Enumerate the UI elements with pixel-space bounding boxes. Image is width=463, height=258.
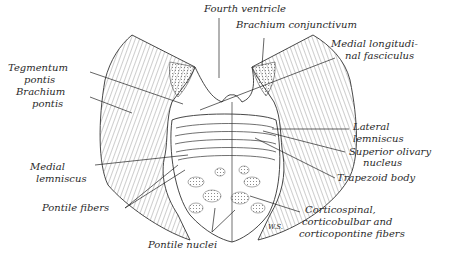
label-corticospinal-2: corticobulbar and xyxy=(302,217,392,227)
label-superior-olivary-nucleus-2: nucleus xyxy=(363,158,402,168)
label-corticospinal-1: Corticospinal, xyxy=(305,205,376,215)
label-brachium-pontis-1: Brachium xyxy=(16,87,65,97)
label-trapezoid-body: Trapezoid body xyxy=(337,173,415,183)
label-tegmentum-pontis-1: Tegmentum xyxy=(8,63,68,73)
label-tegmentum-pontis-2: pontis xyxy=(24,75,55,85)
label-medial-longitudinal-fasciculus-1: Medial longitudi- xyxy=(331,39,418,49)
pons-cross-section-diagram: Fourth ventricle Brachium conjunctivum M… xyxy=(0,0,463,258)
label-lateral-lemniscus-2: lemniscus xyxy=(353,134,404,144)
label-brachium-conjunctivum: Brachium conjunctivum xyxy=(236,20,357,30)
artist-signature: W.S. xyxy=(268,222,283,232)
pontile-nuclei-blobs xyxy=(188,166,265,213)
tegmentum-outline xyxy=(195,67,254,102)
label-superior-olivary-nucleus-1: Superior olivary xyxy=(349,147,431,157)
label-brachium-pontis-2: pontis xyxy=(32,99,63,109)
label-fourth-ventricle: Fourth ventricle xyxy=(204,4,286,14)
trapezoid-bands xyxy=(175,102,276,242)
label-lateral-lemniscus-1: Lateral xyxy=(353,122,389,132)
label-medial-lemniscus-1: Medial xyxy=(30,162,65,172)
label-pontile-nuclei: Pontile nuclei xyxy=(148,240,217,250)
label-corticospinal-3: corticopontine fibers xyxy=(299,229,405,239)
label-medial-longitudinal-fasciculus-2: nal fasciculus xyxy=(345,51,414,61)
label-pontile-fibers: Pontile fibers xyxy=(42,203,109,213)
label-medial-lemniscus-2: lemniscus xyxy=(36,174,87,184)
